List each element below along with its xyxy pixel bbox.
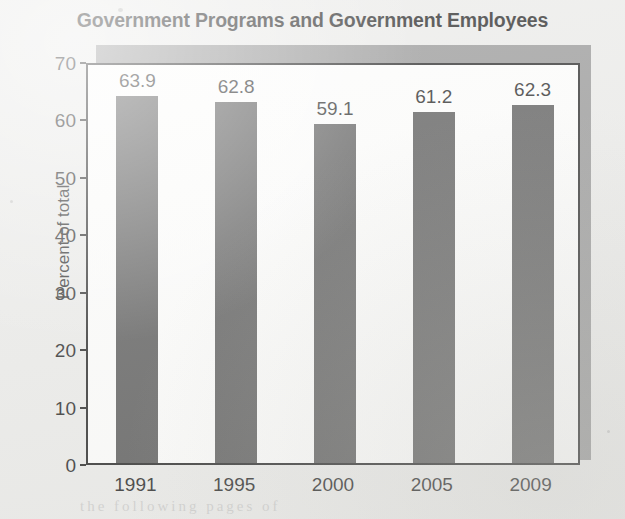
y-tick-mark bbox=[80, 62, 86, 64]
bar-2000[interactable] bbox=[314, 124, 356, 463]
x-tick-label-1995: 1995 bbox=[179, 474, 289, 496]
y-tick-label-30: 30 bbox=[30, 284, 76, 303]
y-tick-label-60: 60 bbox=[30, 111, 76, 130]
scan-speck bbox=[607, 430, 610, 433]
y-tick-label-40: 40 bbox=[30, 226, 76, 245]
y-tick-label-10: 10 bbox=[30, 399, 76, 418]
plot-frame: 63.962.859.161.262.3 bbox=[86, 63, 580, 465]
bar-1991[interactable] bbox=[116, 96, 158, 463]
plot-area: 63.962.859.161.262.3 bbox=[88, 65, 578, 463]
x-tick-label-1991: 1991 bbox=[80, 474, 190, 496]
scan-speck bbox=[118, 8, 123, 12]
bar-value-label-2009: 62.3 bbox=[514, 80, 551, 99]
scan-speck bbox=[10, 200, 13, 203]
y-tick-mark bbox=[80, 234, 86, 236]
y-tick-mark bbox=[80, 292, 86, 294]
bar-2009[interactable] bbox=[512, 105, 554, 463]
bar-group-1995: 62.8 bbox=[187, 65, 286, 463]
bar-value-label-1995: 62.8 bbox=[218, 77, 255, 96]
bar-value-label-2000: 59.1 bbox=[316, 99, 353, 118]
bar-1995[interactable] bbox=[215, 102, 257, 463]
y-tick-label-50: 50 bbox=[30, 169, 76, 188]
x-tick-label-2009: 2009 bbox=[476, 474, 586, 496]
y-tick-label-20: 20 bbox=[30, 341, 76, 360]
x-tick-label-2005: 2005 bbox=[377, 474, 487, 496]
bar-group-1991: 63.9 bbox=[88, 65, 187, 463]
chart-title: Government Programs and Government Emplo… bbox=[0, 9, 625, 32]
y-tick-mark bbox=[80, 349, 86, 351]
bar-group-2005: 61.2 bbox=[384, 65, 483, 463]
bar-value-label-2005: 61.2 bbox=[415, 87, 452, 106]
y-tick-mark bbox=[80, 464, 86, 466]
y-tick-mark bbox=[80, 119, 86, 121]
bar-2005[interactable] bbox=[413, 112, 455, 463]
x-tick-label-2000: 2000 bbox=[278, 474, 388, 496]
bar-group-2000: 59.1 bbox=[286, 65, 385, 463]
y-tick-mark bbox=[80, 407, 86, 409]
y-tick-label-0: 0 bbox=[30, 456, 76, 475]
bar-value-label-1991: 63.9 bbox=[119, 71, 156, 90]
bar-group-2009: 62.3 bbox=[483, 65, 582, 463]
y-tick-mark bbox=[80, 177, 86, 179]
y-tick-label-70: 70 bbox=[30, 54, 76, 73]
page-bleed-through-text: the following pages of bbox=[80, 498, 500, 516]
